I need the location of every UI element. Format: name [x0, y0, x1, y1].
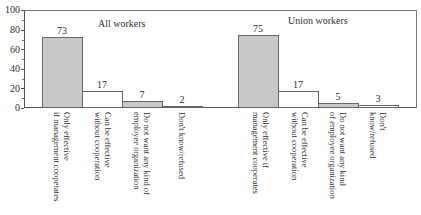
x-label: Do not want any kind of employee organiz…	[328, 112, 348, 199]
value-label: 17	[278, 80, 318, 90]
y-tick-0: 0	[0, 103, 20, 113]
x-label: Don't know/refused	[177, 112, 187, 179]
bar-all-only-effective	[42, 37, 83, 108]
bar-union-dont-know	[358, 105, 399, 108]
bar-union-do-not-want	[318, 103, 359, 108]
x-label: Only effective if management cooperates	[52, 112, 72, 201]
value-label: 17	[82, 80, 122, 90]
panel-title-union-workers: Union workers	[288, 16, 348, 26]
x-label: Can be effective without cooperation	[290, 112, 310, 180]
y-tick-20: 20	[0, 84, 20, 94]
y-tick-80: 80	[0, 25, 20, 35]
bar-all-can-be-effective	[82, 91, 123, 108]
value-label: 73	[42, 26, 82, 36]
y-tick-60: 60	[0, 45, 20, 55]
bar-union-only-effective	[238, 35, 279, 108]
bar-all-do-not-want	[122, 101, 163, 108]
panel-title-all-workers: All workers	[98, 19, 146, 29]
x-label: Do not want any kind of employee organiz…	[132, 112, 152, 195]
y-tick-40: 40	[0, 64, 20, 74]
x-label: Don't know/refused	[368, 112, 388, 158]
value-label: 2	[162, 95, 202, 105]
tick-mark	[21, 108, 24, 109]
value-label: 75	[238, 24, 278, 34]
y-tick-100: 100	[0, 5, 20, 15]
x-label: Only effective if management cooperates	[251, 112, 271, 194]
value-label: 3	[358, 94, 398, 104]
value-label: 5	[318, 92, 358, 102]
bar-all-dont-know	[162, 106, 203, 108]
value-label: 7	[122, 90, 162, 100]
bar-union-can-be-effective	[278, 91, 319, 108]
x-label: Can be effective without cooperation	[93, 112, 113, 180]
